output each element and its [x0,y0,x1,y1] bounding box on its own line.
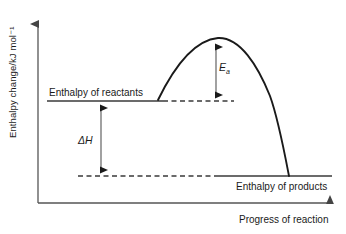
activation-energy-symbol: E [219,61,226,73]
y-axis-label: Enthalpy change/kJ mol⁻¹ [8,27,18,138]
reaction-pathway-curve [158,38,289,176]
energy-profile-figure: Enthalpy change/kJ mol⁻¹ Progress of rea… [0,0,346,234]
x-axis-label: Progress of reaction [239,215,329,225]
reactants-level-label: Enthalpy of reactants [49,88,143,98]
products-level-label: Enthalpy of products [236,182,327,192]
plot-canvas [0,0,346,234]
activation-energy-subscript: a [226,68,230,75]
activation-energy-label: Ea [219,62,230,75]
enthalpy-change-label: ΔH [78,135,93,146]
